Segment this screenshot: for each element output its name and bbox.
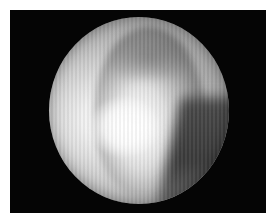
vignette <box>49 17 229 204</box>
endoscopic-view <box>49 17 229 204</box>
image-frame <box>10 10 266 213</box>
